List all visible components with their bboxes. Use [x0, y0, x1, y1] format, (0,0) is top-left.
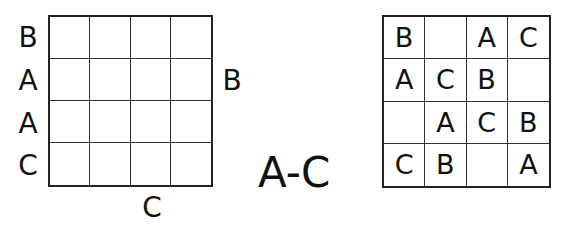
puzzle-cell-r1c4[interactable]	[171, 17, 211, 59]
solution-cell-r3c3: C	[467, 102, 508, 144]
puzzle-cell-r4c4[interactable]	[171, 143, 211, 185]
solution-cell-r1c2	[425, 17, 466, 59]
right-clue-row-2: B	[220, 67, 244, 95]
puzzle-cell-r2c2[interactable]	[90, 59, 130, 101]
solution-cell-r1c4: C	[508, 17, 549, 59]
solution-cell-r1c3: A	[467, 17, 508, 59]
puzzle-cell-r2c3[interactable]	[131, 59, 171, 101]
solution-cell-r2c2: C	[425, 59, 466, 101]
left-clue-row-1: B	[16, 24, 40, 52]
puzzle-cell-r2c1[interactable]	[50, 59, 90, 101]
puzzle-cell-r1c3[interactable]	[131, 17, 171, 59]
solution-cell-r3c2: A	[425, 102, 466, 144]
puzzle-cell-r4c1[interactable]	[50, 143, 90, 185]
solution-cell-r2c4	[508, 59, 549, 101]
puzzle-cell-r4c3[interactable]	[131, 143, 171, 185]
solution-cell-r4c1: C	[384, 144, 425, 186]
solution-cell-r4c2: B	[425, 144, 466, 186]
left-clue-row-4: C	[16, 152, 40, 180]
puzzle-cell-r3c1[interactable]	[50, 101, 90, 143]
solution-cell-r3c1	[384, 102, 425, 144]
puzzle-letter-range-label: A-C	[258, 152, 330, 194]
puzzle-cell-r1c2[interactable]	[90, 17, 130, 59]
puzzle-cell-r3c2[interactable]	[90, 101, 130, 143]
puzzle-cell-r2c4[interactable]	[171, 59, 211, 101]
solution-grid: BACACBACBCBA	[382, 15, 551, 188]
left-clue-row-2: A	[16, 67, 40, 95]
left-clue-row-3: A	[16, 110, 40, 138]
puzzle-grid	[48, 15, 213, 187]
puzzle-cell-r3c4[interactable]	[171, 101, 211, 143]
solution-cell-r2c1: A	[384, 59, 425, 101]
solution-cell-r2c3: B	[467, 59, 508, 101]
solution-cell-r4c3	[467, 144, 508, 186]
bottom-clue-col-3: C	[140, 194, 164, 222]
solution-cell-r4c4: A	[508, 144, 549, 186]
solution-cell-r1c1: B	[384, 17, 425, 59]
puzzle-cell-r4c2[interactable]	[90, 143, 130, 185]
solution-cell-r3c4: B	[508, 102, 549, 144]
puzzle-cell-r1c1[interactable]	[50, 17, 90, 59]
puzzle-cell-r3c3[interactable]	[131, 101, 171, 143]
